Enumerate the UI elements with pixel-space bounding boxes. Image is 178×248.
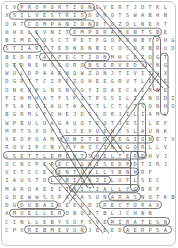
grid-cell[interactable]: P — [18, 3, 26, 11]
grid-cell[interactable]: K — [18, 86, 26, 94]
grid-cell[interactable]: E — [124, 152, 132, 160]
grid-cell[interactable]: R — [18, 77, 26, 85]
grid-cell[interactable]: L — [26, 11, 34, 19]
grid-cell[interactable]: S — [56, 86, 64, 94]
grid-cell[interactable]: I — [94, 160, 102, 168]
grid-cell[interactable]: E — [146, 20, 154, 28]
grid-cell[interactable]: E — [26, 102, 34, 110]
grid-cell[interactable]: V — [169, 135, 177, 143]
grid-cell[interactable]: I — [124, 110, 132, 118]
grid-cell[interactable]: B — [48, 218, 56, 226]
grid-cell[interactable]: V — [131, 69, 139, 77]
grid-cell[interactable]: H — [63, 69, 71, 77]
grid-cell[interactable]: I — [56, 28, 64, 36]
grid-cell[interactable]: T — [109, 119, 117, 127]
grid-cell[interactable]: D — [18, 28, 26, 36]
grid-cell[interactable]: T — [63, 28, 71, 36]
grid-cell[interactable]: I — [71, 3, 79, 11]
grid-cell[interactable]: C — [3, 226, 11, 234]
grid-cell[interactable]: H — [18, 94, 26, 102]
grid-cell[interactable]: O — [33, 3, 41, 11]
grid-cell[interactable]: Y — [109, 168, 117, 176]
grid-cell[interactable]: L — [18, 69, 26, 77]
grid-cell[interactable]: R — [146, 185, 154, 193]
grid-cell[interactable]: R — [116, 77, 124, 85]
grid-cell[interactable]: E — [139, 152, 147, 160]
grid-cell[interactable]: T — [18, 127, 26, 135]
grid-cell[interactable]: H — [116, 53, 124, 61]
grid-cell[interactable]: J — [71, 127, 79, 135]
grid-cell[interactable]: G — [56, 119, 64, 127]
grid-cell[interactable]: B — [146, 44, 154, 52]
grid-cell[interactable]: B — [154, 28, 162, 36]
grid-cell[interactable]: M — [48, 226, 56, 234]
grid-cell[interactable]: A — [146, 110, 154, 118]
grid-cell[interactable]: B — [116, 168, 124, 176]
grid-cell[interactable]: O — [3, 160, 11, 168]
grid-cell[interactable]: L — [33, 209, 41, 217]
grid-cell[interactable]: E — [56, 160, 64, 168]
grid-cell[interactable]: I — [94, 185, 102, 193]
grid-cell[interactable]: H — [161, 36, 169, 44]
grid-cell[interactable]: Q — [131, 143, 139, 151]
grid-cell[interactable]: E — [48, 152, 56, 160]
grid-cell[interactable]: J — [109, 69, 117, 77]
grid-cell[interactable]: N — [146, 94, 154, 102]
grid-cell[interactable]: A — [63, 119, 71, 127]
grid-cell[interactable]: D — [56, 201, 64, 209]
grid-cell[interactable]: L — [41, 152, 49, 160]
grid-cell[interactable]: N — [124, 168, 132, 176]
grid-cell[interactable]: U — [18, 176, 26, 184]
grid-cell[interactable]: E — [63, 53, 71, 61]
grid-cell[interactable]: E — [71, 28, 79, 36]
grid-cell[interactable]: P — [124, 160, 132, 168]
grid-cell[interactable]: M — [26, 94, 34, 102]
grid-cell[interactable]: L — [131, 176, 139, 184]
grid-cell[interactable]: S — [124, 127, 132, 135]
grid-cell[interactable]: L — [101, 168, 109, 176]
grid-cell[interactable]: E — [94, 3, 102, 11]
grid-cell[interactable]: V — [56, 143, 64, 151]
grid-cell[interactable]: D — [86, 201, 94, 209]
grid-cell[interactable]: S — [86, 152, 94, 160]
grid-cell[interactable]: O — [101, 119, 109, 127]
grid-cell[interactable]: N — [154, 102, 162, 110]
grid-cell[interactable]: R — [139, 201, 147, 209]
grid-cell[interactable]: O — [78, 77, 86, 85]
grid-cell[interactable]: H — [86, 77, 94, 85]
grid-cell[interactable]: T — [94, 209, 102, 217]
grid-cell[interactable]: E — [33, 61, 41, 69]
grid-cell[interactable]: O — [71, 218, 79, 226]
grid-cell[interactable]: M — [18, 36, 26, 44]
grid-cell[interactable]: P — [33, 143, 41, 151]
grid-cell[interactable]: T — [161, 135, 169, 143]
grid-cell[interactable]: P — [146, 226, 154, 234]
grid-cell[interactable]: A — [86, 168, 94, 176]
grid-cell[interactable]: X — [63, 143, 71, 151]
grid-cell[interactable]: D — [124, 20, 132, 28]
grid-cell[interactable]: E — [94, 135, 102, 143]
grid-cell[interactable]: Q — [33, 102, 41, 110]
grid-cell[interactable]: T — [41, 44, 49, 52]
grid-cell[interactable]: Q — [78, 119, 86, 127]
grid-cell[interactable]: Z — [86, 69, 94, 77]
grid-cell[interactable]: N — [26, 61, 34, 69]
grid-cell[interactable]: O — [71, 160, 79, 168]
grid-cell[interactable]: C — [26, 20, 34, 28]
grid-cell[interactable]: O — [48, 3, 56, 11]
grid-cell[interactable]: I — [101, 176, 109, 184]
grid-cell[interactable]: S — [48, 36, 56, 44]
grid-cell[interactable]: U — [63, 61, 71, 69]
grid-cell[interactable]: T — [124, 3, 132, 11]
grid-cell[interactable]: O — [146, 193, 154, 201]
grid-cell[interactable]: P — [48, 20, 56, 28]
grid-cell[interactable]: B — [169, 193, 177, 201]
grid-cell[interactable]: V — [139, 61, 147, 69]
grid-cell[interactable]: V — [101, 3, 109, 11]
grid-cell[interactable]: N — [146, 209, 154, 217]
grid-cell[interactable]: F — [41, 110, 49, 118]
grid-cell[interactable]: R — [146, 86, 154, 94]
grid-cell[interactable]: Z — [94, 176, 102, 184]
grid-cell[interactable]: I — [78, 185, 86, 193]
grid-cell[interactable]: V — [94, 218, 102, 226]
